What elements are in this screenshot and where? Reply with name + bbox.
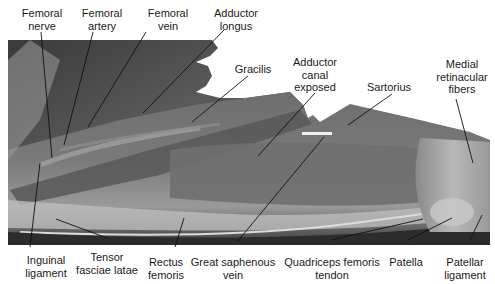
label-sartorius: Sartorius bbox=[367, 81, 411, 94]
thigh-dissection-photo bbox=[0, 0, 495, 284]
label-tensor-fasciae-latae: Tensor fasciae latae bbox=[76, 251, 138, 276]
label-femoral-artery: Femoral artery bbox=[82, 7, 122, 32]
label-line: ligament bbox=[25, 267, 67, 280]
label-line: fasciae latae bbox=[76, 264, 138, 277]
label-line: Inguinal bbox=[25, 254, 67, 267]
label-femoral-nerve: Femoral nerve bbox=[22, 7, 62, 32]
label-gracilis: Gracilis bbox=[235, 63, 272, 76]
label-patella: Patella bbox=[389, 256, 423, 269]
label-line: canal bbox=[293, 69, 337, 82]
label-line: vein bbox=[191, 269, 275, 282]
label-line: fibers bbox=[436, 83, 487, 96]
label-line: nerve bbox=[22, 20, 62, 33]
label-line: tendon bbox=[284, 269, 379, 282]
label-line: exposed bbox=[293, 81, 337, 94]
label-great-saphenous-vein: Great saphenous vein bbox=[191, 256, 275, 281]
label-line: femoris bbox=[148, 269, 184, 282]
label-line: ligament bbox=[444, 269, 486, 282]
label-line: Adductor bbox=[293, 56, 337, 69]
label-medial-retinacular-fibers: Medial retinacular fibers bbox=[436, 58, 487, 96]
label-rectus-femoris: Rectus femoris bbox=[148, 256, 184, 281]
label-line: Femoral bbox=[22, 7, 62, 20]
label-line: Quadriceps femoris bbox=[284, 256, 379, 269]
label-line: Rectus bbox=[148, 256, 184, 269]
label-line: Medial bbox=[436, 58, 487, 71]
label-line: Patellar bbox=[444, 256, 486, 269]
label-adductor-longus: Adductor longus bbox=[214, 7, 258, 32]
label-inguinal-ligament: Inguinal ligament bbox=[25, 254, 67, 279]
anatomy-figure: Femoral nerve Femoral artery Femoral vei… bbox=[0, 0, 495, 284]
label-line: Femoral bbox=[82, 7, 122, 20]
label-quadriceps-femoris-tendon: Quadriceps femoris tendon bbox=[284, 256, 379, 281]
label-line: Tensor bbox=[76, 251, 138, 264]
label-line: Adductor bbox=[214, 7, 258, 20]
label-line: longus bbox=[214, 20, 258, 33]
label-line: vein bbox=[148, 20, 188, 33]
label-line: Patella bbox=[389, 256, 423, 269]
label-patellar-ligament: Patellar ligament bbox=[444, 256, 486, 281]
label-line: Sartorius bbox=[367, 81, 411, 94]
label-femoral-vein: Femoral vein bbox=[148, 7, 188, 32]
label-line: Great saphenous bbox=[191, 256, 275, 269]
label-line: Gracilis bbox=[235, 63, 272, 76]
label-line: Femoral bbox=[148, 7, 188, 20]
label-adductor-canal-exposed: Adductor canal exposed bbox=[293, 56, 337, 94]
label-line: artery bbox=[82, 20, 122, 33]
label-line: retinacular bbox=[436, 71, 487, 84]
